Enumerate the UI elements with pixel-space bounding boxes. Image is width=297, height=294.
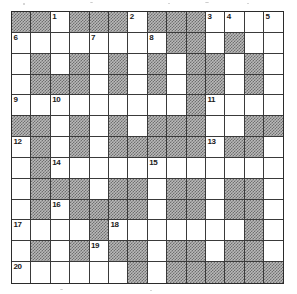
letter-cell[interactable]: 1 (51, 12, 70, 33)
letter-cell[interactable] (148, 262, 167, 283)
letter-cell[interactable] (225, 95, 244, 116)
letter-cell[interactable]: 4 (225, 12, 244, 33)
letter-cell[interactable] (70, 33, 89, 54)
letter-cell[interactable] (12, 241, 31, 262)
letter-cell[interactable] (128, 54, 147, 75)
letter-cell[interactable]: 13 (206, 137, 225, 158)
letter-cell[interactable] (12, 200, 31, 221)
letter-cell[interactable] (12, 158, 31, 179)
letter-cell[interactable] (264, 54, 283, 75)
letter-cell[interactable] (90, 179, 109, 200)
letter-cell[interactable] (148, 241, 167, 262)
letter-cell[interactable] (70, 262, 89, 283)
letter-cell[interactable] (12, 75, 31, 96)
letter-cell[interactable] (187, 158, 206, 179)
letter-cell[interactable] (187, 220, 206, 241)
letter-cell[interactable] (264, 220, 283, 241)
letter-cell[interactable] (225, 158, 244, 179)
letter-cell[interactable] (90, 158, 109, 179)
letter-cell[interactable] (128, 116, 147, 137)
letter-cell[interactable] (12, 54, 31, 75)
letter-cell[interactable]: 15 (148, 158, 167, 179)
letter-cell[interactable] (264, 137, 283, 158)
letter-cell[interactable] (148, 200, 167, 221)
letter-cell[interactable] (148, 95, 167, 116)
letter-cell[interactable] (264, 33, 283, 54)
letter-cell[interactable] (264, 200, 283, 221)
letter-cell[interactable]: 19 (90, 241, 109, 262)
letter-cell[interactable] (225, 54, 244, 75)
letter-cell[interactable]: 5 (264, 12, 283, 33)
letter-cell[interactable] (109, 33, 128, 54)
letter-cell[interactable] (109, 158, 128, 179)
letter-cell[interactable]: 14 (51, 158, 70, 179)
letter-cell[interactable] (167, 95, 186, 116)
letter-cell[interactable] (206, 116, 225, 137)
crossword-grid[interactable]: 1234567891011121314151617181920 (11, 11, 284, 284)
letter-cell[interactable] (206, 200, 225, 221)
letter-cell[interactable] (148, 220, 167, 241)
letter-cell[interactable]: 11 (206, 95, 225, 116)
letter-cell[interactable] (31, 262, 50, 283)
letter-cell[interactable] (128, 75, 147, 96)
letter-cell[interactable] (206, 179, 225, 200)
letter-cell[interactable]: 17 (12, 220, 31, 241)
letter-cell[interactable] (128, 95, 147, 116)
letter-cell[interactable] (51, 54, 70, 75)
letter-cell[interactable]: 6 (12, 33, 31, 54)
letter-cell[interactable] (225, 116, 244, 137)
letter-cell[interactable] (90, 75, 109, 96)
letter-cell[interactable] (70, 95, 89, 116)
letter-cell[interactable] (90, 116, 109, 137)
letter-cell[interactable] (264, 179, 283, 200)
letter-cell[interactable]: 9 (12, 95, 31, 116)
letter-cell[interactable] (90, 54, 109, 75)
letter-cell[interactable] (264, 75, 283, 96)
letter-cell[interactable]: 18 (109, 220, 128, 241)
letter-cell[interactable] (167, 54, 186, 75)
letter-cell[interactable] (31, 220, 50, 241)
letter-cell[interactable] (90, 262, 109, 283)
letter-cell[interactable] (167, 75, 186, 96)
letter-cell[interactable] (31, 33, 50, 54)
letter-cell[interactable] (12, 179, 31, 200)
letter-cell[interactable]: 10 (51, 95, 70, 116)
letter-cell[interactable] (70, 220, 89, 241)
letter-cell[interactable] (264, 241, 283, 262)
letter-cell[interactable] (90, 137, 109, 158)
letter-cell[interactable] (51, 116, 70, 137)
letter-cell[interactable]: 8 (148, 33, 167, 54)
letter-cell[interactable] (51, 137, 70, 158)
letter-cell[interactable] (245, 12, 264, 33)
letter-cell[interactable] (167, 220, 186, 241)
letter-cell[interactable] (264, 95, 283, 116)
letter-cell[interactable]: 16 (51, 200, 70, 221)
letter-cell[interactable] (31, 95, 50, 116)
letter-cell[interactable] (90, 95, 109, 116)
letter-cell[interactable]: 2 (128, 12, 147, 33)
letter-cell[interactable] (245, 95, 264, 116)
letter-cell[interactable] (148, 179, 167, 200)
letter-cell[interactable] (70, 158, 89, 179)
letter-cell[interactable]: 7 (90, 33, 109, 54)
letter-cell[interactable] (128, 158, 147, 179)
letter-cell[interactable] (206, 33, 225, 54)
letter-cell[interactable] (51, 220, 70, 241)
letter-cell[interactable] (128, 220, 147, 241)
letter-cell[interactable] (109, 95, 128, 116)
letter-cell[interactable] (51, 241, 70, 262)
letter-cell[interactable] (206, 158, 225, 179)
letter-cell[interactable]: 20 (12, 262, 31, 283)
letter-cell[interactable]: 3 (206, 12, 225, 33)
letter-cell[interactable] (225, 220, 244, 241)
letter-cell[interactable] (245, 33, 264, 54)
letter-cell[interactable] (51, 262, 70, 283)
letter-cell[interactable] (206, 220, 225, 241)
letter-cell[interactable]: 12 (12, 137, 31, 158)
letter-cell[interactable] (167, 158, 186, 179)
letter-cell[interactable] (206, 241, 225, 262)
letter-cell[interactable] (245, 158, 264, 179)
letter-cell[interactable] (51, 33, 70, 54)
letter-cell[interactable] (225, 75, 244, 96)
letter-cell[interactable] (128, 33, 147, 54)
